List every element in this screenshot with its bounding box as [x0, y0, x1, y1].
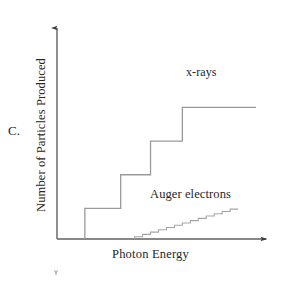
cropped-arrow-artifact: [54, 270, 58, 277]
xrays-step-curve: [85, 107, 256, 239]
x-axis-title: Photon Energy: [112, 248, 189, 261]
y-axis-title-container: Number of Particles Produced: [32, 30, 50, 240]
figure-panel-c: C. Number of Particles Produced Photon E…: [0, 0, 286, 284]
series-label-xrays: x-rays: [186, 66, 217, 78]
series-label-auger-electrons: Auger electrons: [150, 188, 231, 201]
panel-label: C.: [8, 124, 20, 137]
auger-step-curve: [135, 209, 238, 239]
y-axis-title: Number of Particles Produced: [34, 58, 49, 212]
